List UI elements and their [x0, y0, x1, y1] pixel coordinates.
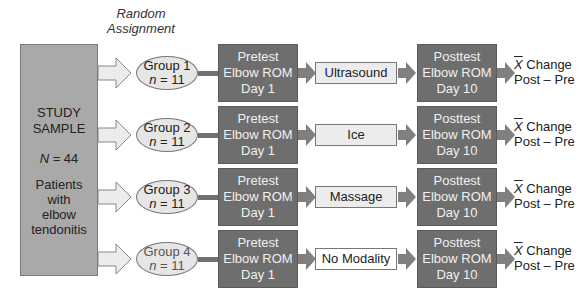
random-assignment-label: Random Assignment	[96, 6, 186, 36]
group-n: n = 11	[137, 73, 197, 87]
posttest-line: Elbow ROM	[418, 65, 496, 81]
arrow-right-icon	[398, 124, 416, 146]
arrow-right-icon	[497, 62, 515, 84]
posttest-line: Posttest	[418, 173, 496, 189]
group-n: n = 11	[137, 197, 197, 211]
posttest-box-3: PosttestElbow ROMDay 10	[417, 168, 497, 226]
modality-box-4: No Modality	[315, 248, 397, 270]
arrow-right-icon	[298, 248, 316, 270]
sample-description: Patients with elbow tendonitis	[21, 177, 97, 237]
group-label: Group 2	[137, 121, 197, 135]
study-sample-title-2: SAMPLE	[33, 121, 86, 136]
arrow-right-icon	[497, 186, 515, 208]
assignment-arrow-icon	[98, 243, 132, 275]
connector-line	[198, 195, 218, 200]
posttest-line: Elbow ROM	[418, 127, 496, 143]
desc-line: tendonitis	[31, 222, 87, 237]
posttest-box-2: PosttestElbow ROMDay 10	[417, 106, 497, 164]
arrow-right-icon	[398, 248, 416, 270]
mean-change-label: X ChangePost – Pre	[514, 243, 583, 273]
result-line: Change	[526, 181, 572, 196]
posttest-line: Day 10	[418, 205, 496, 221]
x-bar-symbol: X	[514, 181, 523, 196]
result-line: Change	[526, 119, 572, 134]
group-label: Group 1	[137, 59, 197, 73]
group-ellipse-4: Group 4 n = 11	[136, 242, 198, 276]
study-sample-title-1: STUDY	[37, 105, 81, 120]
pretest-line: Elbow ROM	[219, 65, 297, 81]
posttest-line: Posttest	[418, 235, 496, 251]
arrow-right-icon	[398, 186, 416, 208]
x-bar-symbol: X	[514, 57, 523, 72]
result-line: Post – Pre	[514, 258, 583, 273]
posttest-box-1: PosttestElbow ROMDay 10	[417, 44, 497, 102]
posttest-line: Elbow ROM	[418, 251, 496, 267]
connector-line	[198, 71, 218, 76]
pretest-line: Pretest	[219, 49, 297, 65]
group-n: n = 11	[137, 259, 197, 273]
mean-change-label: X ChangePost – Pre	[514, 119, 583, 149]
mean-change-label: X ChangePost – Pre	[514, 57, 583, 87]
desc-line: Patients	[36, 177, 83, 192]
n-value: = 44	[49, 151, 78, 166]
pretest-line: Elbow ROM	[219, 189, 297, 205]
pretest-box-1: PretestElbow ROMDay 1	[218, 44, 298, 102]
result-line: Change	[526, 57, 572, 72]
group-label: Group 3	[137, 183, 197, 197]
pretest-line: Pretest	[219, 173, 297, 189]
arrow-right-icon	[497, 248, 515, 270]
group-ellipse-3: Group 3 n = 11	[136, 180, 198, 214]
mean-change-label: X ChangePost – Pre	[514, 181, 583, 211]
arrow-right-icon	[298, 124, 316, 146]
desc-line: elbow	[42, 207, 76, 222]
pretest-box-4: PretestElbow ROMDay 1	[218, 230, 298, 288]
arrow-right-icon	[298, 186, 316, 208]
arrow-right-icon	[398, 62, 416, 84]
group-ellipse-1: Group 1 n = 11	[136, 56, 198, 90]
result-line: Post – Pre	[514, 134, 583, 149]
random-label-line2: Assignment	[96, 21, 186, 36]
assignment-arrow-icon	[98, 57, 132, 89]
group-n: n = 11	[137, 135, 197, 149]
result-line: Post – Pre	[514, 72, 583, 87]
desc-line: with	[47, 192, 70, 207]
x-bar-symbol: X	[514, 119, 523, 134]
sample-size: N = 44	[21, 151, 97, 167]
result-line: Post – Pre	[514, 196, 583, 211]
group-label: Group 4	[137, 245, 197, 259]
posttest-line: Day 10	[418, 81, 496, 97]
pretest-line: Pretest	[219, 111, 297, 127]
study-sample-box: STUDY SAMPLE N = 44 Patients with elbow …	[20, 44, 98, 276]
modality-box-2: Ice	[315, 124, 397, 146]
result-line: Change	[526, 243, 572, 258]
assignment-arrow-icon	[98, 119, 132, 151]
pretest-line: Day 1	[219, 267, 297, 283]
modality-box-3: Massage	[315, 186, 397, 208]
posttest-box-4: PosttestElbow ROMDay 10	[417, 230, 497, 288]
x-bar-symbol: X	[514, 243, 523, 258]
connector-line	[198, 133, 218, 138]
n-symbol: N	[40, 151, 49, 166]
connector-line	[198, 257, 218, 262]
posttest-line: Day 10	[418, 143, 496, 159]
posttest-line: Posttest	[418, 111, 496, 127]
random-label-line1: Random	[96, 6, 186, 21]
modality-box-1: Ultrasound	[315, 62, 397, 84]
group-ellipse-2: Group 2 n = 11	[136, 118, 198, 152]
posttest-line: Day 10	[418, 267, 496, 283]
pretest-line: Day 1	[219, 143, 297, 159]
pretest-line: Pretest	[219, 235, 297, 251]
posttest-line: Posttest	[418, 49, 496, 65]
pretest-line: Day 1	[219, 81, 297, 97]
pretest-line: Day 1	[219, 205, 297, 221]
pretest-line: Elbow ROM	[219, 127, 297, 143]
arrow-right-icon	[497, 124, 515, 146]
pretest-box-2: PretestElbow ROMDay 1	[218, 106, 298, 164]
pretest-box-3: PretestElbow ROMDay 1	[218, 168, 298, 226]
pretest-line: Elbow ROM	[219, 251, 297, 267]
posttest-line: Elbow ROM	[418, 189, 496, 205]
arrow-right-icon	[298, 62, 316, 84]
assignment-arrow-icon	[98, 181, 132, 213]
